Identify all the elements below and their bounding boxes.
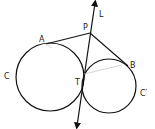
label-c-prime: C′ <box>140 89 148 98</box>
circle-c-prime <box>82 59 136 113</box>
label-b: B <box>130 61 136 70</box>
label-c: C <box>4 72 10 81</box>
circle-c <box>16 43 84 111</box>
geometry-diagram: L P A C T B C′ <box>0 0 155 129</box>
label-t: T <box>74 78 80 87</box>
segment-pb <box>90 33 128 66</box>
segment-pa <box>46 33 90 44</box>
faint-mark-a <box>46 44 52 48</box>
label-a: A <box>39 35 45 44</box>
label-p: P <box>83 23 88 32</box>
label-l: L <box>99 10 104 19</box>
